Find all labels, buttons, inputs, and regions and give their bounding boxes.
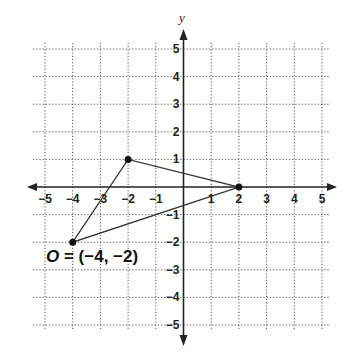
vertex-dot [125, 156, 132, 163]
y-tick-label: 3 [173, 97, 180, 111]
point-label: O = (−4, −2) [46, 247, 138, 266]
y-axis-up-arrow-icon [180, 29, 188, 40]
point-label-letter: O [46, 247, 59, 266]
x-tick-label: 5 [319, 192, 326, 206]
coordinate-plane: y −5−4−3−2−11234554321−1−2−3−4−5 O = (−4… [0, 0, 348, 363]
x-tick-label: −2 [121, 192, 135, 206]
axes: y [27, 10, 337, 346]
y-axis-label: y [177, 10, 185, 25]
y-tick-label: 1 [173, 152, 180, 166]
x-tick-label: −4 [66, 192, 80, 206]
x-tick-label: 2 [236, 192, 243, 206]
y-tick-label: −1 [166, 208, 180, 222]
y-tick-label: 4 [173, 70, 180, 84]
x-tick-label: −1 [149, 192, 163, 206]
vertex-dot [235, 184, 242, 191]
x-tick-label: 1 [208, 192, 215, 206]
x-axis-left-arrow-icon [27, 183, 37, 191]
x-tick-label: 3 [263, 192, 270, 206]
point-label-coords: = (−4, −2) [59, 247, 138, 266]
x-axis-right-arrow-icon [327, 183, 337, 191]
y-tick-label: −3 [166, 263, 180, 277]
x-tick-label: −5 [38, 192, 52, 206]
vertex-dot [69, 239, 76, 246]
y-tick-label: −5 [166, 318, 180, 332]
y-axis-down-arrow-icon [180, 335, 188, 346]
y-tick-label: −2 [166, 235, 180, 249]
x-tick-label: 4 [291, 192, 298, 206]
y-tick-label: −4 [166, 290, 180, 304]
y-tick-label: 2 [173, 125, 180, 139]
y-tick-label: 5 [173, 42, 180, 56]
